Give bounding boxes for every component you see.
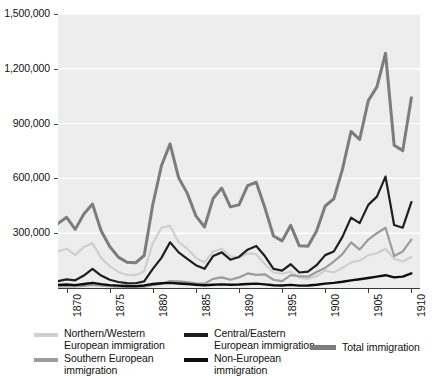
plot-area: [58, 14, 420, 288]
legend-item[interactable]: Non-European immigration: [184, 353, 334, 376]
x-tick-label: 1870: [72, 294, 83, 317]
legend-label: Central/Eastern European immigration: [214, 328, 315, 351]
x-tick-label: 1885: [201, 294, 212, 317]
legend-item[interactable]: Northern/Western European immigration: [34, 328, 184, 351]
legend-swatch-icon: [34, 333, 58, 337]
y-tick-label: 900,000: [13, 118, 50, 129]
chart-legend: Northern/Western European immigrationSou…: [0, 328, 432, 375]
x-tick-label: 1875: [115, 294, 126, 317]
x-tick-mark: [368, 288, 369, 293]
x-tick-mark: [239, 288, 240, 293]
legend-item[interactable]: Southern European immigration: [34, 353, 184, 376]
x-tick-mark: [67, 288, 68, 293]
y-tick-label: 600,000: [13, 172, 50, 183]
x-tick-label: 1880: [158, 294, 169, 317]
legend-swatch-icon: [310, 345, 336, 350]
gridlines: [58, 14, 420, 233]
series-lines: [58, 53, 411, 287]
x-tick-mark: [196, 288, 197, 293]
legend-swatch-icon: [184, 333, 208, 337]
legend-swatch-icon: [34, 358, 58, 362]
plot-svg: [58, 14, 420, 288]
legend-label: Southern European immigration: [64, 353, 153, 376]
x-tick-mark: [282, 288, 283, 293]
x-tick-label: 1905: [373, 294, 384, 317]
x-tick-mark: [325, 288, 326, 293]
x-tick-mark: [411, 288, 412, 293]
legend-item[interactable]: Total immigration: [310, 342, 432, 354]
x-tick-label: 1910: [416, 294, 427, 317]
legend-label: Total immigration: [342, 342, 420, 354]
legend-label: Non-European immigration: [214, 353, 281, 376]
x-tick-mark: [110, 288, 111, 293]
y-tick-label: 1,200,000: [4, 63, 50, 74]
x-tick-label: 1895: [287, 294, 298, 317]
x-tick-label: 1890: [244, 294, 255, 317]
y-axis: 300,000600,000900,0001,200,0001,500,000: [0, 0, 54, 302]
series-line-total-immigration: [58, 53, 411, 263]
legend-label: Northern/Western European immigration: [64, 328, 165, 351]
y-tick-label: 1,500,000: [4, 8, 50, 19]
x-tick-label: 1900: [330, 294, 341, 317]
y-tick-label: 300,000: [13, 227, 50, 238]
x-tick-mark: [153, 288, 154, 293]
legend-swatch-icon: [184, 358, 208, 362]
